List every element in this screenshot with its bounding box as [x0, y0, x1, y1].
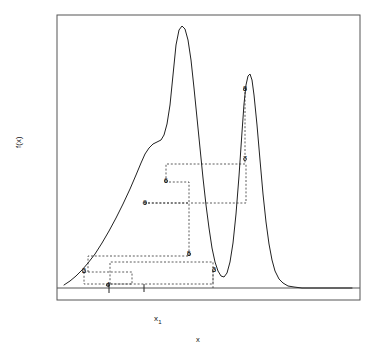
point-label-9: 9 [143, 199, 147, 206]
point-label-7: 7 [243, 155, 247, 162]
y-axis-label: f(x) [14, 136, 23, 148]
plot-background [0, 0, 371, 356]
point-label-3: 3 [212, 266, 216, 273]
x-axis-label: x [196, 335, 200, 344]
density-plot-figure [0, 0, 371, 356]
x1-tick-label: x1 [154, 314, 162, 325]
point-label-6: 6 [164, 177, 168, 184]
point-label-8: 8 [243, 85, 247, 92]
point-label-2: 2 [82, 267, 86, 274]
x1-tick-label-sub: 1 [158, 319, 162, 325]
point-label-4: 4 [106, 281, 110, 288]
point-label-5: 5 [187, 250, 191, 257]
